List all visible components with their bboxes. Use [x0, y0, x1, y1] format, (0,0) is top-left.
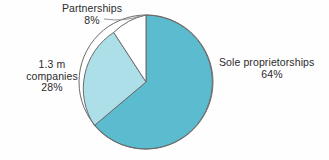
pie-label-companies-line1: 1.3 m [39, 58, 66, 70]
pie-label-partnerships-percent: 8% [60, 15, 124, 27]
pie-label-companies: 1.3 m companies 28% [14, 59, 90, 94]
pie-label-sole-proprietorships: Sole proprietorships 64% [219, 57, 325, 80]
pie-label-partnerships: Partnerships 8% [60, 3, 124, 26]
pie-label-partnerships-title: Partnerships [62, 2, 122, 14]
pie-label-sole-proprietorships-percent: 64% [219, 69, 325, 81]
pie-label-sole-proprietorships-title: Sole proprietorships [219, 56, 314, 68]
pie-label-companies-line2: companies [26, 70, 78, 82]
pie-label-companies-percent: 28% [14, 82, 90, 94]
pie-chart: Partnerships 8% 1.3 m companies 28% Sole… [0, 0, 329, 160]
